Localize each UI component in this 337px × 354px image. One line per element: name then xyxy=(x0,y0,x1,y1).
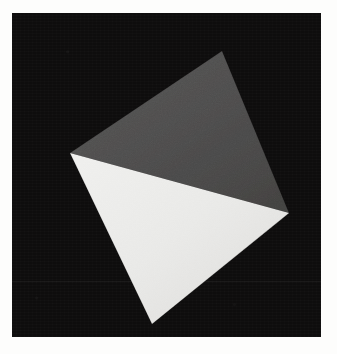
render-canvas xyxy=(12,13,321,337)
polyhedron-figure xyxy=(12,13,321,337)
page-root xyxy=(0,0,337,354)
